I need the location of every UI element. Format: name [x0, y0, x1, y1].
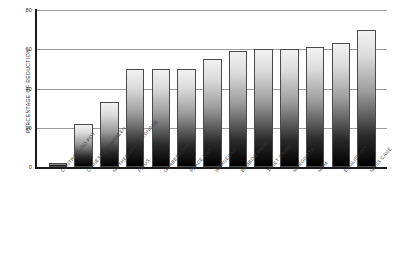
y-axis-tick-labels: 020406080 — [12, 0, 32, 255]
x-axis-tick-labels: CONTROL—NO POTCHINESE EVERGREENMOTHER-IN… — [37, 170, 387, 255]
y-axis-tick-label: 80 — [16, 7, 32, 13]
bar — [332, 43, 351, 167]
plot-area — [37, 10, 387, 167]
y-axis-tick-label: 0 — [16, 164, 32, 170]
y-axis-tick-label: 20 — [16, 125, 32, 131]
y-axis-tick-label: 60 — [16, 46, 32, 52]
y-axis-tick-label: 40 — [16, 86, 32, 92]
bar-chart: PERCENTAGE OF REDUCTION 020406080 CONTRO… — [0, 0, 394, 255]
bar-series — [37, 10, 387, 167]
